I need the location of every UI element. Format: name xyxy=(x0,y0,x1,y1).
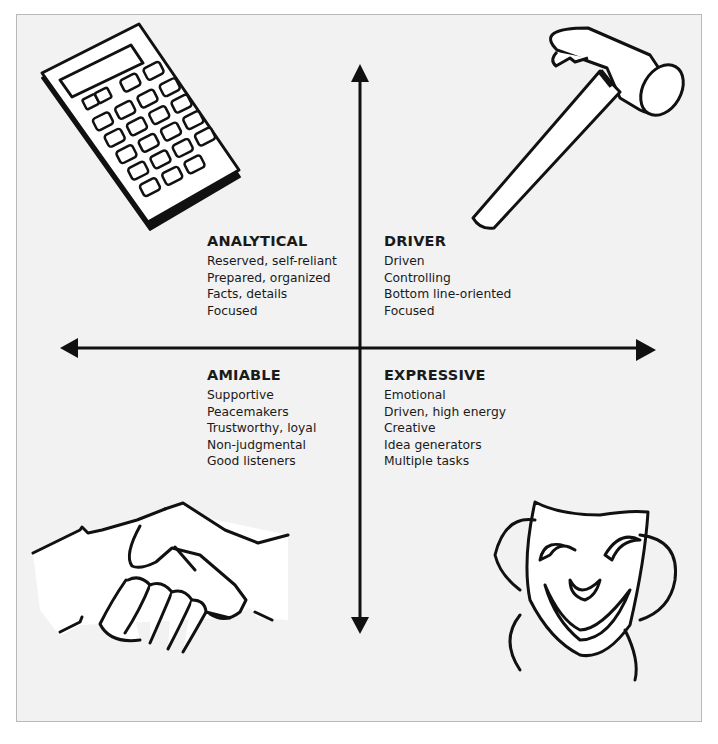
trait-item: Driven, high energy xyxy=(384,404,506,421)
arrow-left-icon xyxy=(60,338,78,358)
arrow-right-icon xyxy=(636,339,656,361)
calculator-icon xyxy=(42,24,240,230)
hammer-icon xyxy=(473,28,692,228)
trait-item: Reserved, self-reliant xyxy=(207,253,337,270)
arrow-up-icon xyxy=(351,64,369,82)
horizontal-axis xyxy=(60,338,656,361)
trait-item: Trustworthy, loyal xyxy=(207,420,316,437)
trait-item: Bottom line-oriented xyxy=(384,286,511,303)
trait-item: Facts, details xyxy=(207,286,337,303)
trait-item: Emotional xyxy=(384,387,506,404)
trait-list: Driven Controlling Bottom line-oriented … xyxy=(384,253,511,319)
trait-item: Good listeners xyxy=(207,453,316,470)
arrow-down-icon xyxy=(351,617,369,634)
trait-item: Focused xyxy=(207,303,337,320)
trait-list: Emotional Driven, high energy Creative I… xyxy=(384,387,506,470)
quadrant-expressive: EXPRESSIVE Emotional Driven, high energy… xyxy=(384,367,506,470)
quadrant-title: DRIVER xyxy=(384,233,511,249)
trait-item: Idea generators xyxy=(384,437,506,454)
comedy-mask-icon xyxy=(495,502,676,680)
quadrant-title: AMIABLE xyxy=(207,367,316,383)
trait-item: Focused xyxy=(384,303,511,320)
trait-item: Driven xyxy=(384,253,511,270)
trait-item: Multiple tasks xyxy=(384,453,506,470)
trait-item: Controlling xyxy=(384,270,511,287)
trait-list: Reserved, self-reliant Prepared, organiz… xyxy=(207,253,337,319)
handshake-icon xyxy=(33,503,288,652)
trait-list: Supportive Peacemakers Trustworthy, loya… xyxy=(207,387,316,470)
quadrant-amiable: AMIABLE Supportive Peacemakers Trustwort… xyxy=(207,367,316,470)
trait-item: Non-judgmental xyxy=(207,437,316,454)
trait-item: Prepared, organized xyxy=(207,270,337,287)
quadrant-analytical: ANALYTICAL Reserved, self-reliant Prepar… xyxy=(207,233,337,319)
quadrant-title: ANALYTICAL xyxy=(207,233,337,249)
quadrant-art xyxy=(0,0,718,744)
quadrant-driver: DRIVER Driven Controlling Bottom line-or… xyxy=(384,233,511,319)
trait-item: Creative xyxy=(384,420,506,437)
quadrant-title: EXPRESSIVE xyxy=(384,367,506,383)
trait-item: Peacemakers xyxy=(207,404,316,421)
trait-item: Supportive xyxy=(207,387,316,404)
